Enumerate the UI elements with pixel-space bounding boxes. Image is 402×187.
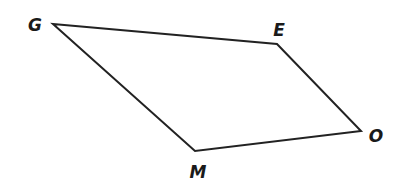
vertex-label-o: O bbox=[369, 126, 383, 146]
quadrilateral-diagram: G E O M bbox=[0, 0, 402, 187]
vertex-label-e: E bbox=[273, 20, 285, 40]
quadrilateral-gemo bbox=[53, 24, 361, 151]
vertex-label-g: G bbox=[28, 15, 42, 35]
vertex-label-m: M bbox=[190, 162, 207, 182]
